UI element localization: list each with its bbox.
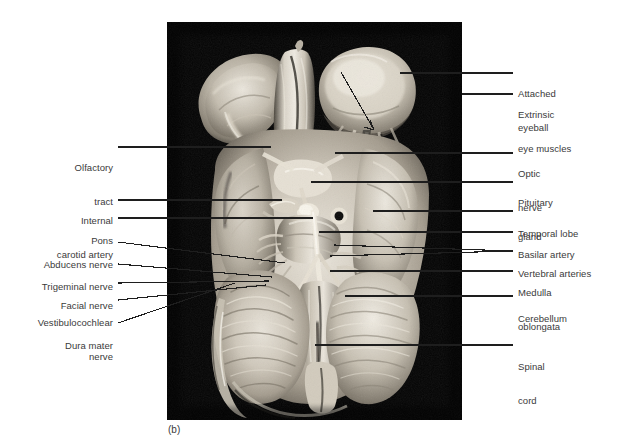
label-dura-mater-line1: Dura mater — [0, 340, 113, 351]
label-spinal-cord: Spinal cord — [518, 338, 545, 429]
label-olfactory-tract-line1: Olfactory — [0, 162, 113, 173]
specimen-photograph — [167, 22, 462, 420]
anatomy-figure: Attached eyeball Extrinsic eye muscles O… — [0, 0, 619, 448]
inferior-brain-specimen-image — [167, 22, 462, 420]
label-extrinsic-eye-muscles-line1: Extrinsic — [518, 109, 571, 120]
label-spinal-cord-line2: cord — [518, 395, 545, 406]
figure-caption: (b) — [168, 424, 180, 435]
label-dura-mater: Dura mater — [0, 317, 113, 374]
label-spinal-cord-line1: Spinal — [518, 361, 545, 372]
label-cerebellum-line1: Cerebellum — [518, 313, 567, 324]
